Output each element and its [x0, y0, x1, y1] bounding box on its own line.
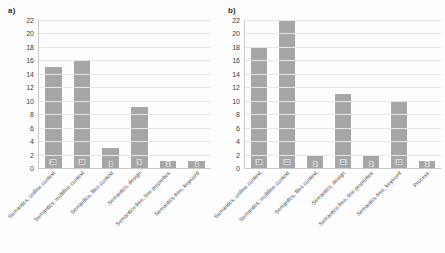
x-axis-labels-a: Semantics, uniline contextSemantics, mul… — [38, 170, 210, 250]
bar-value-label: 1 — [194, 161, 199, 167]
bar-slot: 1 — [182, 20, 211, 168]
bar[interactable]: 2 — [307, 155, 323, 168]
bar-slot: 22 — [273, 20, 301, 168]
y-tick-label: 16 — [26, 57, 34, 64]
bar[interactable]: 1 — [419, 161, 435, 168]
y-tick-label: 4 — [236, 138, 240, 145]
bar-group-a: 15163911 — [39, 20, 211, 168]
y-tick-label: 10 — [26, 97, 34, 104]
bar-slot: 18 — [245, 20, 273, 168]
x-axis-labels-b: Semantics, uniline contextSemantics, mul… — [244, 170, 440, 250]
y-tick-label: 12 — [232, 84, 240, 91]
gridline — [39, 20, 211, 21]
bar[interactable]: 22 — [279, 20, 295, 168]
x-tick-label: Semantics, multiline context — [33, 170, 85, 222]
bar-slot: 2 — [357, 20, 385, 168]
bar-value-label: 2 — [369, 161, 374, 167]
bar[interactable]: 2 — [363, 155, 379, 168]
chart-panel-b: b) 0246810121416182022 18222112101 Seman… — [222, 0, 445, 253]
gridline — [245, 101, 441, 102]
bar-slot: 9 — [125, 20, 154, 168]
y-tick-label: 12 — [26, 84, 34, 91]
bar-value-label: 22 — [283, 159, 290, 165]
bar-slot: 10 — [385, 20, 413, 168]
bar-group-b: 18222112101 — [245, 20, 441, 168]
bar[interactable]: 1 — [160, 161, 177, 168]
bar[interactable]: 3 — [102, 148, 119, 168]
bar-slot: 16 — [68, 20, 97, 168]
y-tick-label: 0 — [30, 165, 34, 172]
gridline — [39, 101, 211, 102]
gridline — [39, 33, 211, 34]
chart-panel-a: a) 0246810121416182022 15163911 Semantic… — [0, 0, 222, 253]
bar-value-label: 1 — [425, 161, 430, 167]
y-tick-label: 16 — [232, 57, 240, 64]
gridline — [245, 128, 441, 129]
gridline — [39, 74, 211, 75]
gridline — [245, 87, 441, 88]
gridline — [39, 141, 211, 142]
y-tick-label: 22 — [232, 17, 240, 24]
x-tick-label: Semantics, multiline context — [238, 170, 290, 222]
y-tick-label: 2 — [30, 151, 34, 158]
bar-value-label: 2 — [313, 161, 318, 167]
gridline — [245, 33, 441, 34]
gridline — [245, 60, 441, 61]
x-tick-label: Semantics-free, line properties — [317, 170, 374, 227]
y-tick-label: 2 — [236, 151, 240, 158]
y-tick-label: 8 — [236, 111, 240, 118]
gridline — [245, 47, 441, 48]
y-tick-label: 18 — [232, 43, 240, 50]
bar[interactable]: 18 — [251, 47, 267, 168]
bar-value-label: 16 — [78, 159, 85, 165]
bar-slot: 15 — [39, 20, 68, 168]
plot-b: 0246810121416182022 18222112101 Semantic… — [222, 0, 445, 253]
y-tick-label: 8 — [30, 111, 34, 118]
bar[interactable]: 11 — [335, 94, 351, 168]
bar-slot: 3 — [96, 20, 125, 168]
gridline — [39, 114, 211, 115]
y-tick-label: 10 — [232, 97, 240, 104]
y-tick-label: 6 — [236, 124, 240, 131]
bar-slot: 1 — [413, 20, 441, 168]
bar-slot: 11 — [329, 20, 357, 168]
bar-value-label: 11 — [340, 159, 347, 165]
gridline — [245, 155, 441, 156]
x-tick-label: Semantics-free, line properties — [114, 170, 171, 227]
gridline — [245, 141, 441, 142]
y-tick-label: 20 — [26, 30, 34, 37]
x-tick-label: Semantics, uniline context — [7, 170, 56, 219]
bar-value-label: 15 — [50, 159, 57, 165]
x-tick-label: Process — [412, 170, 430, 188]
bar-slot: 1 — [154, 20, 183, 168]
bar-value-label: 9 — [137, 159, 142, 165]
y-axis-ticks-a: 0246810121416182022 — [16, 20, 34, 168]
bar[interactable]: 10 — [391, 101, 407, 168]
y-axis-ticks-b: 0246810121416182022 — [222, 20, 240, 168]
bar-value-label: 3 — [108, 161, 113, 167]
figure-container: a) 0246810121416182022 15163911 Semantic… — [0, 0, 445, 253]
bar-value-label: 10 — [395, 159, 402, 165]
gridline — [245, 20, 441, 21]
gridline — [39, 60, 211, 61]
bar-value-label: 1 — [166, 161, 171, 167]
gridline — [39, 155, 211, 156]
y-tick-label: 6 — [30, 124, 34, 131]
y-tick-label: 4 — [30, 138, 34, 145]
gridline — [39, 128, 211, 129]
y-tick-label: 22 — [26, 17, 34, 24]
bar[interactable]: 1 — [188, 161, 205, 168]
bar[interactable]: 9 — [131, 107, 148, 168]
y-tick-label: 14 — [26, 70, 34, 77]
plot-area-a: 15163911 — [38, 20, 211, 169]
y-tick-label: 18 — [26, 43, 34, 50]
gridline — [39, 47, 211, 48]
plot-a: 0246810121416182022 15163911 Semantics, … — [0, 0, 222, 253]
y-tick-label: 20 — [232, 30, 240, 37]
bar[interactable]: 15 — [45, 67, 62, 168]
bar-slot: 2 — [301, 20, 329, 168]
y-tick-label: 0 — [236, 165, 240, 172]
y-tick-label: 14 — [232, 70, 240, 77]
bar-value-label: 18 — [255, 159, 262, 165]
gridline — [245, 114, 441, 115]
